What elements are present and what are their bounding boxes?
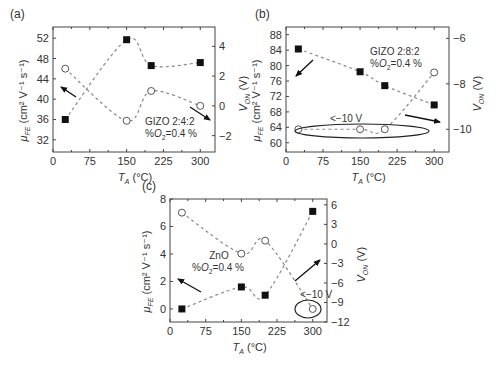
arrow-left-icon: [296, 60, 313, 76]
y-left-tick-label: 2: [160, 275, 166, 287]
annotation-material: GIZO 2:8:2: [370, 46, 420, 57]
y-right-axis-label: VON (V): [355, 247, 369, 283]
x-tick-label: 300: [191, 155, 209, 167]
trend-line: [65, 69, 200, 121]
annotation-threshold: <−10 V: [330, 113, 363, 124]
y-left-tick-label: 44: [37, 73, 49, 85]
y-left-tick-label: 8: [160, 193, 166, 205]
x-tick-label: 300: [304, 325, 322, 337]
data-point-square: [123, 36, 130, 43]
y-right-tick-label: −10: [453, 123, 472, 135]
data-point-square: [357, 68, 364, 75]
x-tick-label: 0: [50, 155, 56, 167]
data-point-square: [62, 116, 69, 123]
data-point-square: [178, 305, 185, 312]
y-right-tick-label: 0: [219, 100, 225, 112]
y-right-tick-label: −3: [331, 257, 344, 269]
y-right-axis-text: VON (V): [237, 76, 251, 112]
data-point-circle: [123, 117, 130, 124]
x-tick-label: 150: [117, 155, 135, 167]
x-tick-label: 300: [425, 155, 443, 167]
chart-panel-b: 0751502253006064687276808488−10−8−6TA (°…: [250, 7, 485, 185]
arrow-right-icon: [295, 260, 320, 281]
y-right-tick-label: 3: [331, 218, 337, 230]
x-tick-label: 0: [167, 325, 173, 337]
arrow-left-icon: [178, 279, 201, 292]
y-left-tick-label: 84: [270, 44, 282, 56]
chart-panel-a: 075150225300323640444852−2024TA (°C)μFE …: [10, 7, 251, 185]
y-left-axis-label: μFE (cm² V⁻¹ s⁻¹): [250, 60, 264, 143]
chart-panel-c: 07515022530002468−12−9−6−3036TA (°C)μFE …: [140, 179, 369, 355]
data-point-square: [197, 59, 204, 66]
threshold-ellipse: [295, 300, 321, 318]
y-left-tick-label: 60: [270, 137, 282, 149]
x-axis-label: TA (°C): [233, 341, 267, 355]
y-left-tick-label: 36: [37, 113, 49, 125]
y-left-tick-label: 88: [270, 29, 282, 41]
y-right-tick-label: −6: [453, 32, 466, 44]
y-right-tick-label: −2: [219, 130, 232, 142]
trend-line: [182, 213, 313, 309]
data-point-square: [381, 82, 388, 89]
y-right-axis-label: VON (V): [237, 76, 251, 112]
panel-label: (b): [255, 7, 270, 21]
data-point-circle: [238, 250, 245, 257]
y-left-tick-label: 76: [270, 75, 282, 87]
y-right-axis-label: VON (V): [471, 76, 485, 112]
y-left-tick-label: 4: [160, 248, 166, 260]
trend-line: [182, 211, 313, 309]
annotation-material: ZnO: [209, 250, 229, 261]
y-left-tick-label: 72: [270, 90, 282, 102]
y-left-tick-label: 68: [270, 106, 282, 118]
y-left-tick-label: 40: [37, 93, 49, 105]
y-right-axis-text: VON (V): [471, 76, 485, 112]
x-tick-label: 225: [268, 325, 286, 337]
y-left-tick-label: 0: [160, 303, 166, 315]
plot-frame: [170, 199, 327, 322]
y-left-tick-label: 80: [270, 60, 282, 72]
figure-canvas: 075150225300323640444852−2024TA (°C)μFE …: [0, 0, 501, 367]
data-point-circle: [262, 237, 269, 244]
arrow-right-icon: [405, 115, 440, 122]
y-right-tick-label: 6: [331, 199, 337, 211]
trend-line: [65, 38, 200, 119]
y-right-tick-label: −12: [331, 316, 350, 328]
x-tick-label: 225: [388, 155, 406, 167]
annotation-oxygen: %O2=0.4 %: [370, 58, 422, 71]
x-tick-label: 75: [84, 155, 96, 167]
y-left-axis-text: μFE (cm² V⁻¹ s⁻¹): [250, 60, 264, 143]
y-right-tick-label: 4: [219, 40, 225, 52]
x-tick-label: 150: [351, 155, 369, 167]
y-left-axis-text: μFE (cm² V⁻¹ s⁻¹): [140, 231, 154, 314]
data-point-circle: [197, 102, 204, 109]
x-tick-label: 0: [283, 155, 289, 167]
y-left-axis-text: μFE (cm² V⁻¹ s⁻¹): [17, 60, 31, 143]
y-right-tick-label: 0: [331, 238, 337, 250]
data-point-square: [309, 208, 316, 215]
y-right-axis-text: VON (V): [355, 247, 369, 283]
data-point-square: [262, 292, 269, 299]
data-point-circle: [357, 126, 364, 133]
x-tick-label: 75: [317, 155, 329, 167]
data-point-square: [431, 101, 438, 108]
annotation-threshold: <−10 V: [300, 289, 333, 300]
x-tick-label: 225: [154, 155, 172, 167]
data-point-circle: [178, 209, 185, 216]
data-point-square: [238, 283, 245, 290]
x-tick-label: 75: [200, 325, 212, 337]
data-point-circle: [148, 87, 155, 94]
data-point-square: [295, 45, 302, 52]
annotation-oxygen: %O2=0.4 %: [145, 128, 197, 141]
y-left-tick-label: 6: [160, 220, 166, 232]
y-left-tick-label: 48: [37, 53, 49, 65]
data-point-circle: [431, 69, 438, 76]
annotation-material: GIZO 2:4:2: [145, 116, 195, 127]
data-point-circle: [309, 305, 316, 312]
data-point-square: [148, 62, 155, 69]
y-left-axis-label: μFE (cm² V⁻¹ s⁻¹): [140, 231, 154, 314]
y-right-tick-label: −8: [453, 78, 466, 90]
annotation-oxygen: %O2=0.4 %: [192, 262, 244, 275]
panel-label: (a): [10, 7, 25, 21]
y-right-tick-label: −9: [331, 296, 344, 308]
data-point-circle: [381, 126, 388, 133]
